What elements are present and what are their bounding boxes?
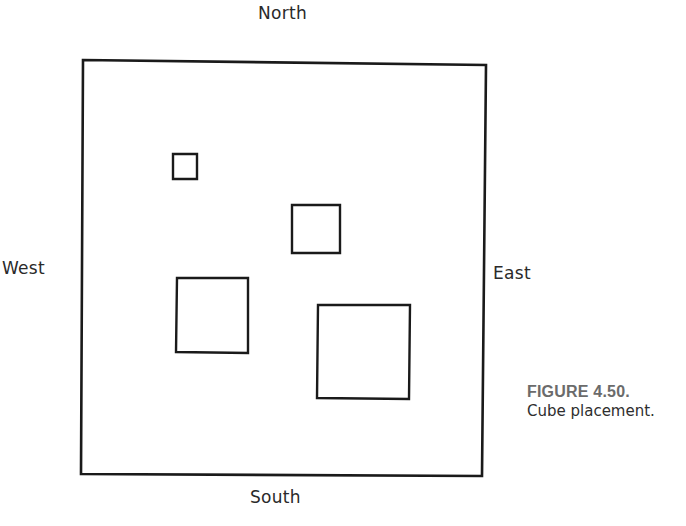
figure-caption: Cube placement. xyxy=(527,402,655,420)
cube-largest xyxy=(317,305,410,399)
figure-number: FIGURE 4.50. xyxy=(527,383,630,401)
room-boundary xyxy=(81,60,486,476)
east-label: East xyxy=(493,263,531,283)
cube-placement-diagram xyxy=(0,0,686,526)
cube-medium xyxy=(292,205,340,253)
cube-small xyxy=(173,154,197,179)
cubes-group xyxy=(173,154,410,399)
cube-large-left xyxy=(176,278,248,353)
south-label: South xyxy=(250,487,301,507)
north-label: North xyxy=(258,3,307,23)
west-label: West xyxy=(2,258,45,278)
